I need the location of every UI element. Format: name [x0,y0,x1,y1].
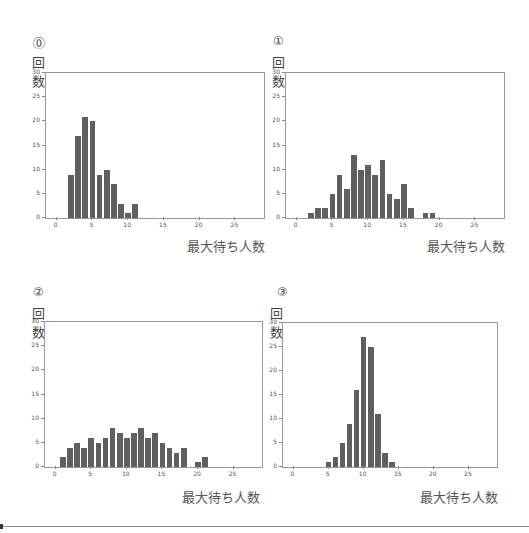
y-tick-label: 5 [26,189,40,196]
x-tick-mark [234,217,235,220]
x-axis-label: 最大待ち人数 [187,236,265,255]
x-tick-mark [56,217,57,220]
x-tick-label: 10 [360,221,374,228]
plot-area [45,72,265,219]
bar [382,453,388,467]
y-tick-mark [282,72,285,73]
bar [81,448,87,467]
x-tick-label: 25 [226,470,240,477]
x-tick-label: 15 [154,470,168,477]
y-tick-mark [41,369,44,370]
bar [103,438,109,467]
y-tick-mark [41,321,44,322]
bar [96,443,102,467]
bar [389,462,395,467]
bar [368,347,374,467]
y-tick-label: 25 [266,92,280,99]
bar [75,136,81,218]
x-tick-mark [199,217,200,220]
y-tick-label: 10 [263,414,277,421]
y-tick-mark [41,442,44,443]
y-tick-mark [41,418,44,419]
y-tick-label: 30 [25,317,39,324]
y-tick-mark [279,322,282,323]
bar [340,443,346,467]
x-tick-label: 15 [396,221,410,228]
y-tick-mark [42,145,45,146]
x-tick-mark [474,217,475,220]
y-tick-mark [279,370,282,371]
bar [167,448,173,467]
bar [322,208,328,218]
x-tick-mark [91,217,92,220]
bar [82,117,88,219]
panel-number: ⓪ [33,34,45,51]
bar [423,213,429,218]
y-tick-label: 5 [25,438,39,445]
bar [117,433,123,467]
bar [375,414,381,467]
bar [408,208,414,218]
x-tick-label: 5 [84,221,98,228]
x-tick-label: 25 [467,221,481,228]
bar [358,170,364,218]
x-tick-label: 10 [119,470,133,477]
x-tick-mark [398,466,399,469]
y-tick-label: 5 [263,438,277,445]
x-tick-label: 15 [156,221,170,228]
y-tick-mark [42,217,45,218]
bar [181,448,187,467]
y-tick-label: 20 [266,116,280,123]
x-tick-label: 10 [120,221,134,228]
y-tick-label: 10 [25,414,39,421]
x-tick-mark [367,217,368,220]
x-tick-mark [127,217,128,220]
y-tick-label: 10 [26,165,40,172]
y-tick-label: 15 [25,390,39,397]
y-tick-mark [41,345,44,346]
x-tick-mark [293,466,294,469]
y-tick-label: 30 [26,68,40,75]
y-tick-label: 0 [266,213,280,220]
bar [351,155,357,218]
y-tick-label: 30 [263,318,277,325]
bar [344,189,350,218]
y-tick-mark [282,96,285,97]
y-tick-mark [42,72,45,73]
bar [347,424,353,467]
x-tick-mark [163,217,164,220]
bar [68,175,74,219]
y-tick-mark [279,418,282,419]
y-tick-label: 25 [26,92,40,99]
bar [110,428,116,467]
x-tick-mark [331,217,332,220]
x-tick-label: 20 [426,470,440,477]
y-tick-mark [42,193,45,194]
y-tick-label: 20 [26,116,40,123]
panel-number: ② [33,285,44,299]
panel-number: ① [273,34,284,48]
bar [138,428,144,467]
bar [145,438,151,467]
x-tick-label: 25 [461,470,475,477]
y-tick-label: 15 [263,390,277,397]
y-tick-mark [282,193,285,194]
bar [430,213,436,218]
bar [387,194,393,218]
y-tick-mark [282,120,285,121]
x-tick-label: 10 [356,470,370,477]
bar [160,443,166,467]
bar [97,175,103,219]
y-tick-mark [282,217,285,218]
x-tick-label: 5 [83,470,97,477]
x-tick-label: 0 [48,470,62,477]
y-tick-mark [279,346,282,347]
bar [394,199,400,218]
x-tick-mark [55,466,56,469]
x-tick-label: 25 [227,221,241,228]
x-tick-mark [403,217,404,220]
y-tick-mark [279,394,282,395]
y-tick-label: 25 [25,341,39,348]
y-tick-mark [282,145,285,146]
y-tick-label: 0 [263,462,277,469]
